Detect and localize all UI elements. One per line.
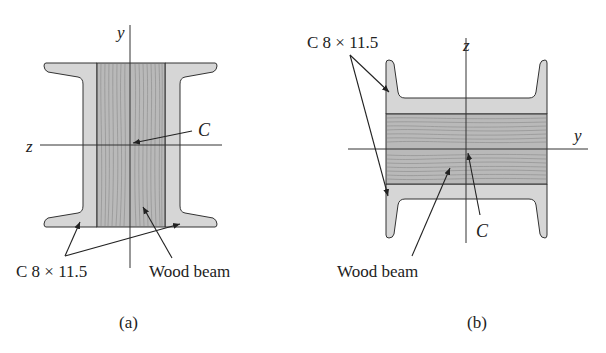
axis-label-z-b: z xyxy=(462,36,470,55)
caption-b: (b) xyxy=(467,313,487,332)
axis-label-y-a: y xyxy=(115,23,125,42)
figure-b: z y C C 8 × 11.5 Wood beam (b) xyxy=(307,33,588,332)
axis-label-y-b: y xyxy=(572,126,582,145)
wood-label-b: Wood beam xyxy=(337,262,418,281)
channel-arrow-bottom-b xyxy=(350,55,388,196)
figure-a: y z C C 8 × 11.5 Wood beam (a) xyxy=(16,23,230,332)
axis-label-z-a: z xyxy=(25,137,33,156)
centroid-label-a: C xyxy=(198,120,211,140)
diagram-canvas: y z C C 8 × 11.5 Wood beam (a) xyxy=(0,0,606,353)
channel-arrow-right-a xyxy=(65,224,180,256)
channel-arrow-top-b xyxy=(350,55,389,92)
channel-label-b: C 8 × 11.5 xyxy=(307,33,378,52)
wood-label-a: Wood beam xyxy=(149,262,230,281)
centroid-label-b: C xyxy=(476,221,489,241)
caption-a: (a) xyxy=(119,313,138,332)
channel-label-a: C 8 × 11.5 xyxy=(16,262,87,281)
